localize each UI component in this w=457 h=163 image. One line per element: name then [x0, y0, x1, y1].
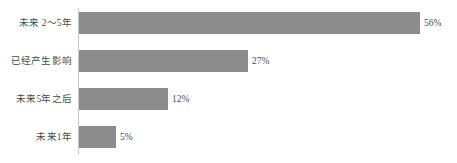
- bar-row: 未来 2～5年 56%: [0, 12, 457, 34]
- bar-segment: [79, 88, 168, 110]
- bar-value-label: 27%: [252, 50, 269, 72]
- category-label: 已经产生影响: [0, 50, 72, 72]
- bar-row: 已经产生影响 27%: [0, 50, 457, 72]
- bar-segment: [79, 12, 420, 34]
- bar-value-label: 5%: [120, 126, 133, 148]
- horizontal-bar-chart: 未来 2～5年 56% 已经产生影响 27% 未来5年之后 12% 未来1年 5…: [0, 0, 457, 163]
- bar-segment: [79, 126, 116, 148]
- bar-row: 未来5年之后 12%: [0, 88, 457, 110]
- category-label: 未来5年之后: [0, 88, 72, 110]
- bar-value-label: 56%: [424, 12, 441, 34]
- category-label: 未来 2～5年: [0, 12, 72, 34]
- category-label: 未来1年: [0, 126, 72, 148]
- bar-segment: [79, 50, 248, 72]
- plot-area: 未来 2～5年 56% 已经产生影响 27% 未来5年之后 12% 未来1年 5…: [0, 0, 457, 163]
- bar-row: 未来1年 5%: [0, 126, 457, 148]
- bar-value-label: 12%: [172, 88, 189, 110]
